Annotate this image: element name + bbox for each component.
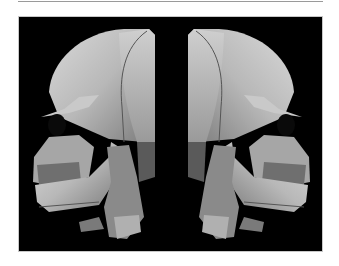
skull-right xyxy=(188,29,310,239)
ct-figure-panel xyxy=(18,16,323,252)
top-rule xyxy=(18,1,323,2)
skull-renderings xyxy=(19,17,323,252)
figure-caption xyxy=(18,257,238,266)
skull-left xyxy=(33,29,155,239)
